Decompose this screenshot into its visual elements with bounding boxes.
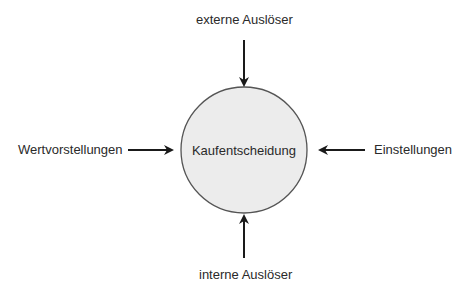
label-right: Einstellungen [374, 142, 452, 157]
label-left: Wertvorstellungen [18, 142, 123, 157]
decision-label: Kaufentscheidung [180, 86, 308, 214]
label-bottom: interne Auslöser [199, 267, 292, 282]
label-top: externe Auslöser [196, 12, 293, 27]
